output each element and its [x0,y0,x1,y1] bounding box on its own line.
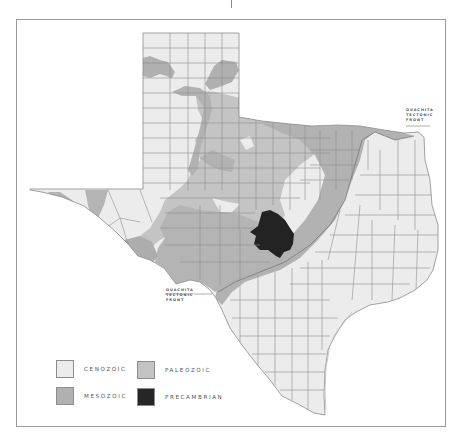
legend-label: CENOZOIC [84,366,127,372]
legend-item-cenozoic: CENOZOIC [56,360,127,378]
legend-item-mesozoic: MESOZOIC [56,387,127,405]
precambrian-spot [134,271,137,273]
map-legend: CENOZOIC PALEOZOIC MESOZOIC PRECAMBRIAN [56,358,246,410]
precambrian-spot [130,289,133,291]
legend-swatch-mesozoic [56,387,74,405]
legend-swatch-precambrian [137,388,155,406]
annotation-line: FRONT [166,298,194,303]
precambrian-spot [93,226,97,231]
legend-swatch-paleozoic [137,361,155,379]
legend-label: PALEOZOIC [165,367,211,373]
legend-label: PRECAMBRIAN [165,394,223,400]
ouachita-front-label-sw: OUACHITA TECTONIC FRONT [166,288,194,303]
legend-label: MESOZOIC [84,393,127,399]
precambrian-spot [130,281,133,283]
precambrian-spot [97,263,99,265]
legend-item-precambrian: PRECAMBRIAN [137,388,223,406]
legend-swatch-cenozoic [56,360,74,378]
ouachita-front-label-ne: OUACHITA TECTONIC FRONT [406,108,434,123]
annotation-line: FRONT [406,118,434,123]
mesozoic-trans-pecos [118,236,158,300]
legend-item-paleozoic: PALEOZOIC [137,361,211,379]
